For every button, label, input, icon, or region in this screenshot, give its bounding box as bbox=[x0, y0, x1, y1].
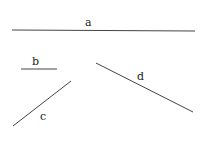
line-segments-diagram: a b c d bbox=[0, 0, 216, 143]
segment-a-label: a bbox=[85, 16, 92, 29]
segment-c-label: c bbox=[40, 110, 46, 123]
diagram-svg: a b c d bbox=[0, 0, 216, 143]
segment-a: a bbox=[12, 16, 195, 31]
segment-d-line bbox=[96, 63, 193, 112]
segment-c: c bbox=[13, 81, 71, 126]
segment-b-label: b bbox=[32, 55, 39, 68]
segment-a-line bbox=[12, 30, 195, 31]
segment-d: d bbox=[96, 63, 193, 112]
segment-d-label: d bbox=[137, 70, 144, 83]
segment-b: b bbox=[21, 55, 57, 69]
